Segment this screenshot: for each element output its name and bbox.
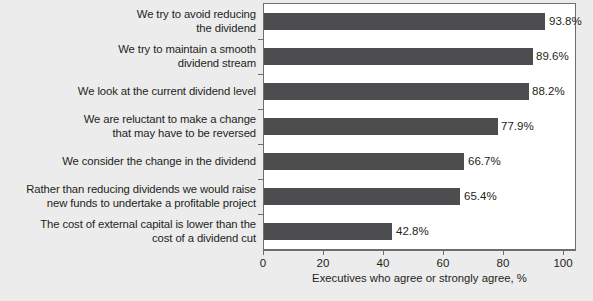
bar bbox=[264, 13, 545, 30]
category-label: Rather than reducing dividends we would … bbox=[0, 183, 256, 210]
bar-value-label: 89.6% bbox=[536, 48, 569, 65]
bar-chart: We try to avoid reducing the dividend We… bbox=[0, 0, 593, 301]
x-axis-tick bbox=[323, 250, 324, 255]
category-label: We are reluctant to make a change that m… bbox=[0, 113, 256, 140]
x-axis-tick bbox=[263, 250, 264, 255]
bar bbox=[264, 188, 460, 205]
x-axis-tick bbox=[383, 250, 384, 255]
category-axis-labels: We try to avoid reducing the dividend We… bbox=[0, 3, 256, 250]
bar-value-label: 77.9% bbox=[501, 118, 534, 135]
bar-value-label: 65.4% bbox=[464, 188, 497, 205]
bar bbox=[264, 83, 529, 100]
x-axis-title: Executives who agree or strongly agree, … bbox=[263, 272, 576, 284]
bars-layer: 93.8% 89.6% 88.2% 77.9% 66.7% 65.4% 42.8… bbox=[264, 4, 575, 249]
category-label: We try to maintain a smooth dividend str… bbox=[0, 43, 256, 70]
bar-value-label: 93.8% bbox=[549, 13, 582, 30]
bar-value-label: 88.2% bbox=[532, 83, 565, 100]
x-axis-tick-label: 0 bbox=[260, 256, 266, 270]
bar bbox=[264, 48, 533, 65]
bar bbox=[264, 118, 498, 135]
x-axis-tick-label: 100 bbox=[553, 256, 572, 270]
x-axis-line bbox=[263, 250, 576, 251]
x-axis-tick bbox=[503, 250, 504, 255]
category-label: We look at the current dividend level bbox=[0, 85, 256, 99]
category-label: The cost of external capital is lower th… bbox=[0, 218, 256, 245]
x-axis-tick-label: 80 bbox=[497, 256, 510, 270]
x-axis-tick-label: 20 bbox=[317, 256, 330, 270]
x-axis-tick-label: 40 bbox=[377, 256, 390, 270]
bar-value-label: 42.8% bbox=[396, 223, 429, 240]
bar-value-label: 66.7% bbox=[468, 153, 501, 170]
x-axis-tick bbox=[563, 250, 564, 255]
bar bbox=[264, 223, 392, 240]
x-axis-tick-label: 60 bbox=[437, 256, 450, 270]
category-label: We try to avoid reducing the dividend bbox=[0, 8, 256, 35]
bar bbox=[264, 153, 464, 170]
x-axis-tick bbox=[443, 250, 444, 255]
category-label: We consider the change in the dividend bbox=[0, 155, 256, 169]
